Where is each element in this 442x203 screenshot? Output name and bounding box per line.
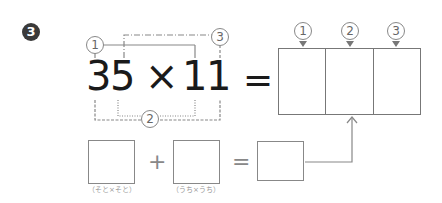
inner-product-box[interactable] — [173, 140, 220, 184]
pin-icon — [392, 41, 400, 47]
digit-tens-right: 1 — [182, 56, 207, 96]
digit-ones-left: 5 — [110, 56, 135, 96]
multiply-sign: × — [145, 56, 179, 96]
plus-sign: + — [148, 151, 166, 173]
inner-product-caption: （うち×うち） — [172, 186, 220, 195]
answer-label-1: 1 — [294, 22, 312, 40]
sub-equals-sign: = — [232, 151, 250, 173]
pin-icon — [346, 41, 354, 47]
answer-label-3: 3 — [387, 22, 405, 40]
sum-box[interactable] — [257, 141, 304, 181]
digit-ones-right: 1 — [206, 56, 231, 96]
answer-grid — [278, 48, 421, 115]
pin-icon — [299, 41, 307, 47]
label-circle-1: 1 — [86, 36, 104, 54]
label-circle-3: 3 — [211, 28, 229, 46]
answer-cell-2[interactable] — [326, 49, 373, 114]
problem-number-badge: 3 — [22, 23, 40, 41]
answer-cell-3[interactable] — [374, 49, 420, 114]
answer-label-2: 2 — [341, 22, 359, 40]
digit-tens-left: 3 — [86, 56, 111, 96]
answer-cell-1[interactable] — [279, 49, 326, 114]
equals-sign: = — [243, 62, 273, 98]
outer-product-box[interactable] — [88, 140, 135, 184]
outer-product-caption: （そと×そと） — [88, 186, 136, 195]
label-circle-2: 2 — [141, 110, 159, 128]
